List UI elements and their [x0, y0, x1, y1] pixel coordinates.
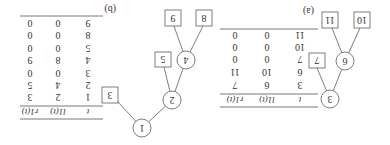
leaf-label: 10	[357, 15, 367, 26]
tree-leaf-square: 5	[155, 52, 171, 67]
svg-text:0: 0	[28, 68, 33, 79]
svg-text:0: 0	[265, 30, 270, 41]
svg-text:8: 8	[56, 55, 61, 66]
table-row: 8 0 0	[28, 30, 91, 41]
node-label: 1	[140, 123, 145, 134]
node-label: 6	[343, 56, 348, 67]
leaf-label: 5	[161, 54, 166, 65]
column-header: l1(t)	[50, 107, 66, 117]
table-row: 2 4 5	[28, 80, 91, 91]
table-row: 3 0 0	[28, 68, 91, 79]
node-label: 3	[328, 94, 333, 105]
column-header: t	[298, 95, 301, 105]
svg-text:10: 10	[295, 42, 305, 53]
node-label: 2	[170, 95, 175, 106]
svg-text:0: 0	[56, 30, 61, 41]
svg-text:8: 8	[86, 30, 91, 41]
svg-text:3: 3	[86, 68, 91, 79]
svg-text:9: 9	[86, 18, 91, 29]
svg-text:1: 1	[86, 92, 91, 103]
node-label: 4	[184, 55, 189, 66]
svg-text:10: 10	[262, 67, 272, 78]
figure-canvas: 3 6 7 10 11 t l1(t) r1(t) 3 6 7	[0, 0, 390, 145]
table-row: 9 0 0	[28, 18, 91, 29]
svg-text:0: 0	[56, 43, 61, 54]
table-row: 6 10 11	[230, 67, 302, 78]
svg-text:0: 0	[265, 42, 270, 53]
panel-a-table: t l1(t) r1(t) 3 6 7 6 10 11 7 0 0 10 0 0…	[220, 5, 318, 107]
svg-text:0: 0	[56, 18, 61, 29]
table-row: 4 8 9	[28, 55, 91, 66]
panel-b-tree: 1 2 4 3 5 8 9	[102, 10, 212, 137]
tree-node-circle: 4	[177, 51, 195, 69]
svg-text:9: 9	[28, 55, 33, 66]
tree-leaf-square: 7	[309, 53, 325, 68]
column-header: r1(t)	[227, 95, 244, 105]
table-row: 11 0 0	[233, 30, 305, 41]
svg-text:5: 5	[86, 43, 91, 54]
leaf-label: 11	[325, 15, 335, 26]
table-row: 3 6 7	[233, 80, 303, 91]
table-row: 1 2 3	[28, 92, 91, 103]
tree-leaf-square: 8	[196, 10, 212, 26]
svg-text:0: 0	[28, 18, 33, 29]
svg-text:2: 2	[86, 80, 91, 91]
panel-a-tree: 3 6 7 10 11	[309, 12, 370, 108]
svg-text:0: 0	[265, 54, 270, 65]
table-row: 7 0 0	[233, 54, 303, 65]
tree-leaf-square: 11	[322, 12, 338, 28]
tree-tables-figure: 3 6 7 10 11 t l1(t) r1(t) 3 6 7	[0, 0, 390, 145]
svg-text:0: 0	[233, 42, 238, 53]
svg-text:5: 5	[28, 80, 33, 91]
svg-text:0: 0	[233, 54, 238, 65]
svg-text:7: 7	[298, 54, 303, 65]
svg-text:3: 3	[28, 92, 33, 103]
tree-node-circle: 2	[163, 91, 181, 109]
svg-text:0: 0	[28, 30, 33, 41]
column-header: l1(t)	[259, 95, 275, 105]
svg-text:3: 3	[298, 80, 303, 91]
panel-label-b: (b)	[104, 3, 116, 15]
tree-node-circle: 1	[133, 119, 151, 137]
table-row: 10 0 0	[233, 42, 306, 53]
table-row: 5 0 0	[28, 43, 91, 54]
svg-text:6: 6	[298, 67, 303, 78]
svg-text:4: 4	[56, 80, 61, 91]
leaf-label: 9	[171, 13, 176, 24]
svg-text:11: 11	[230, 67, 240, 78]
leaf-label: 8	[202, 13, 207, 24]
leaf-label: 3	[108, 90, 113, 101]
panel-label-a: (a)	[303, 5, 314, 17]
svg-text:4: 4	[86, 55, 91, 66]
tree-leaf-square: 10	[354, 12, 370, 28]
svg-text:7: 7	[233, 80, 238, 91]
svg-text:2: 2	[56, 92, 61, 103]
svg-text:11: 11	[295, 30, 305, 41]
svg-text:0: 0	[233, 30, 238, 41]
column-header: r1(t)	[22, 107, 39, 117]
svg-text:6: 6	[265, 80, 270, 91]
leaf-label: 7	[315, 55, 320, 66]
svg-text:0: 0	[28, 43, 33, 54]
tree-leaf-square: 9	[165, 10, 181, 26]
tree-leaf-square: 3	[102, 87, 118, 103]
svg-text:0: 0	[56, 68, 61, 79]
tree-node-circle: 3	[321, 90, 339, 108]
column-header: t	[86, 107, 89, 117]
tree-node-circle: 6	[336, 52, 354, 70]
